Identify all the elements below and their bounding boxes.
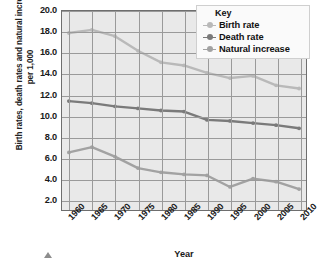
x-axis-tick-label: 1970 <box>112 201 133 222</box>
page-marker-triangle-icon <box>44 252 52 258</box>
legend-item-label: Natural increase <box>219 44 290 54</box>
legend-marker-icon <box>203 20 216 31</box>
legend-item-label: Birth rate <box>219 20 259 30</box>
x-axis-tick-label: 2010 <box>298 201 318 222</box>
x-axis-title: Year <box>61 249 307 259</box>
x-axis-tick-label: 1990 <box>205 201 226 222</box>
x-axis-tick-label: 1960 <box>66 201 87 222</box>
x-axis-tick-label: 1985 <box>182 201 203 222</box>
legend: Key Birth rate Death rate Natural increa… <box>196 5 310 59</box>
legend-item-natural-increase: Natural increase <box>203 43 306 55</box>
x-axis-tick-label: 2000 <box>252 201 273 222</box>
x-axis-tick-label: 2005 <box>275 201 296 222</box>
legend-marker-icon <box>203 32 216 43</box>
chart-figure: Birth rates, death rates and natural inc… <box>0 0 318 264</box>
legend-marker-icon <box>203 44 216 55</box>
x-axis-tick-label: 1995 <box>228 201 249 222</box>
legend-item-death-rate: Death rate <box>203 31 306 43</box>
legend-title: Key <box>215 8 306 19</box>
x-axis-tick-label: 1975 <box>136 201 157 222</box>
x-axis-tick-label: 1980 <box>159 201 180 222</box>
legend-item-label: Death rate <box>219 32 263 42</box>
legend-item-birth-rate: Birth rate <box>203 19 306 31</box>
x-axis-tick-label: 1965 <box>89 201 110 222</box>
